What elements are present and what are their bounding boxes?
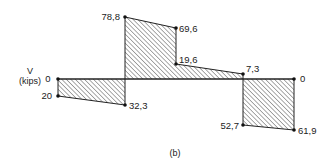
value-label: 0: [300, 73, 305, 84]
point-dot: [174, 62, 178, 66]
shear-force-diagram: V (kips) 0 20 32,3 78,8 69,6 19,6 7,3 52…: [0, 0, 332, 159]
figure-caption: (b): [170, 148, 181, 158]
point-dot: [56, 94, 60, 98]
axis-unit: (kips): [19, 76, 41, 86]
point-dot: [56, 77, 60, 81]
negative-shear-region-left: [58, 79, 125, 105]
value-label: 78,8: [102, 11, 121, 22]
point-dot: [292, 77, 296, 81]
point-dot: [292, 128, 296, 132]
value-label: 7,3: [246, 63, 259, 74]
value-label: 19,6: [179, 54, 198, 65]
value-label: 0: [45, 73, 50, 84]
point-dot: [123, 103, 127, 107]
point-dot: [241, 72, 245, 76]
value-label: 52,7: [221, 120, 240, 131]
value-label: 69,6: [179, 23, 198, 34]
point-dot: [174, 26, 178, 30]
value-label: 20: [41, 90, 52, 101]
axis-symbol: V: [27, 66, 33, 76]
value-label: 61,9: [298, 125, 317, 136]
point-dot: [123, 15, 127, 19]
negative-shear-region-right: [243, 79, 294, 130]
point-dot: [241, 123, 245, 127]
value-label: 32,3: [129, 100, 148, 111]
